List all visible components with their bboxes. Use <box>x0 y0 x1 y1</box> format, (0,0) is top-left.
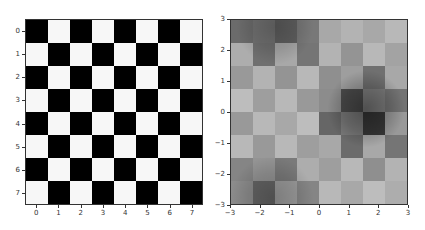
checker-cell <box>114 135 136 158</box>
x-tick-mark <box>349 205 350 208</box>
x-tick-label: 0 <box>34 210 38 217</box>
checker-cell <box>180 158 202 181</box>
checker-cell <box>92 181 114 204</box>
blended-cell <box>319 89 341 112</box>
checker-cell <box>26 20 48 43</box>
blended-cell <box>275 43 297 66</box>
blended-cell <box>363 20 385 43</box>
y-tick-mark <box>22 147 25 148</box>
checker-cell <box>136 66 158 89</box>
checker-cell <box>48 43 70 66</box>
checker-cell <box>26 43 48 66</box>
blended-cell <box>363 135 385 158</box>
checker-cell <box>48 89 70 112</box>
blended-plot <box>230 19 408 205</box>
blended-cell <box>363 181 385 204</box>
y-tick-label: −2 <box>211 171 225 178</box>
checker-cell <box>92 20 114 43</box>
y-tick-label: 2 <box>211 47 225 54</box>
y-tick-mark <box>227 205 230 206</box>
blended-cell <box>231 43 253 66</box>
blended-cell <box>231 89 253 112</box>
blended-cell <box>319 43 341 66</box>
y-tick-label: 2 <box>6 74 20 81</box>
checker-cell <box>180 112 202 135</box>
y-tick-mark <box>227 81 230 82</box>
checker-cell <box>180 135 202 158</box>
blended-cell <box>253 89 275 112</box>
x-tick-mark <box>81 205 82 208</box>
blended-cell <box>253 66 275 89</box>
checkerboard-image <box>26 20 202 204</box>
checker-cell <box>48 135 70 158</box>
blended-cell <box>319 181 341 204</box>
y-tick-mark <box>227 50 230 51</box>
y-tick-mark <box>227 174 230 175</box>
blended-cell <box>341 20 363 43</box>
blended-cell <box>319 20 341 43</box>
blended-cell <box>297 135 319 158</box>
checker-cell <box>92 135 114 158</box>
x-tick-mark <box>289 205 290 208</box>
blended-cell <box>363 158 385 181</box>
blended-cell <box>275 20 297 43</box>
y-tick-mark <box>22 193 25 194</box>
checker-cell <box>180 66 202 89</box>
y-tick-label: 7 <box>6 190 20 197</box>
blended-cell <box>297 20 319 43</box>
x-tick-label: 7 <box>190 210 194 217</box>
checker-cell <box>136 20 158 43</box>
blended-cell <box>253 112 275 135</box>
checker-cell <box>92 66 114 89</box>
blended-cell <box>341 181 363 204</box>
blended-cell <box>319 112 341 135</box>
checker-cell <box>92 43 114 66</box>
checker-cell <box>70 112 92 135</box>
blended-cell <box>231 20 253 43</box>
y-tick-label: 3 <box>211 16 225 23</box>
checker-cell <box>114 181 136 204</box>
y-tick-label: 3 <box>6 97 20 104</box>
x-tick-label: 6 <box>167 210 171 217</box>
blended-cell <box>253 43 275 66</box>
blended-cell <box>253 135 275 158</box>
blended-cell <box>297 158 319 181</box>
checker-cell <box>92 158 114 181</box>
blended-cell <box>341 66 363 89</box>
x-tick-label: 1 <box>56 210 60 217</box>
checker-cell <box>136 135 158 158</box>
checker-cell <box>114 158 136 181</box>
x-tick-label: 2 <box>78 210 82 217</box>
blended-cell <box>363 112 385 135</box>
checker-cell <box>136 158 158 181</box>
checker-cell <box>158 158 180 181</box>
blended-cell <box>231 135 253 158</box>
checker-cell <box>158 89 180 112</box>
blended-cell <box>275 66 297 89</box>
x-tick-mark <box>192 205 193 208</box>
blended-cell <box>319 66 341 89</box>
y-tick-label: 1 <box>211 78 225 85</box>
x-tick-label: −3 <box>225 210 235 217</box>
blended-cell <box>297 89 319 112</box>
blended-cell <box>363 66 385 89</box>
blended-cell <box>231 181 253 204</box>
checker-cell <box>26 135 48 158</box>
checker-cell <box>70 43 92 66</box>
y-tick-mark <box>22 170 25 171</box>
checker-cell <box>180 181 202 204</box>
y-tick-label: −3 <box>211 202 225 209</box>
blended-cell <box>275 135 297 158</box>
checker-cell <box>26 181 48 204</box>
checker-cell <box>180 20 202 43</box>
y-tick-label: 0 <box>211 109 225 116</box>
x-tick-label: 2 <box>376 210 380 217</box>
blended-cell <box>319 135 341 158</box>
checker-cell <box>136 112 158 135</box>
blended-cell <box>341 135 363 158</box>
y-tick-label: −1 <box>211 140 225 147</box>
checker-cell <box>26 158 48 181</box>
checker-cell <box>70 181 92 204</box>
y-tick-mark <box>227 112 230 113</box>
y-tick-mark <box>227 19 230 20</box>
